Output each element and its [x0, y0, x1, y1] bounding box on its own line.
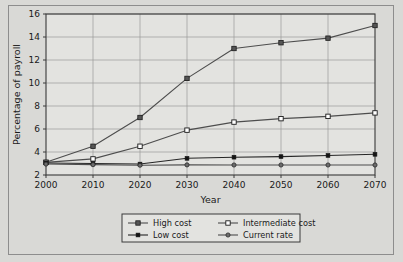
data-point-high-cost [91, 144, 95, 148]
chart-figure: 2468101214162000201020202030204020502060… [0, 0, 403, 262]
data-point-high-cost [326, 36, 330, 40]
y-tick-label: 16 [29, 9, 41, 19]
legend-label-low-cost: Low cost [153, 230, 190, 240]
x-tick-label: 2030 [176, 180, 199, 190]
x-tick-label: 2000 [35, 180, 58, 190]
x-tick-label: 2060 [317, 180, 340, 190]
data-point-intermediate-cost [279, 116, 283, 120]
x-tick-label: 2050 [270, 180, 293, 190]
data-point-current-rate [185, 163, 189, 167]
data-point-intermediate-cost [91, 157, 95, 161]
data-point-current-rate [373, 163, 377, 167]
y-tick-label: 4 [34, 147, 40, 157]
y-tick-label: 12 [29, 55, 40, 65]
line-chart: 2468101214162000201020202030204020502060… [0, 0, 403, 262]
legend-label-intermediate-cost: Intermediate cost [243, 218, 316, 228]
legend-label-current-rate: Current rate [243, 230, 293, 240]
y-tick-label: 2 [34, 170, 40, 180]
data-point-current-rate [326, 163, 330, 167]
data-point-high-cost [138, 115, 142, 119]
data-point-current-rate [279, 163, 283, 167]
x-axis-title: Year [199, 194, 220, 205]
data-point-intermediate-cost [373, 111, 377, 115]
y-tick-label: 8 [34, 101, 40, 111]
legend-marker-current-rate [226, 233, 230, 237]
x-tick-label: 2070 [364, 180, 387, 190]
y-tick-label: 14 [29, 32, 41, 42]
legend-marker-intermediate-cost [226, 221, 230, 225]
legend-marker-low-cost [136, 233, 140, 237]
data-point-high-cost [232, 46, 236, 50]
data-point-low-cost [185, 156, 189, 160]
data-point-current-rate [44, 162, 48, 166]
data-point-low-cost [232, 155, 236, 159]
data-point-low-cost [279, 155, 283, 159]
data-point-intermediate-cost [326, 114, 330, 118]
data-point-high-cost [185, 76, 189, 80]
data-point-intermediate-cost [185, 128, 189, 132]
data-point-current-rate [91, 163, 95, 167]
x-tick-label: 2020 [129, 180, 152, 190]
y-tick-label: 6 [34, 124, 40, 134]
legend-marker-high-cost [136, 221, 140, 225]
data-point-high-cost [373, 23, 377, 27]
data-point-current-rate [138, 163, 142, 167]
data-point-intermediate-cost [138, 144, 142, 148]
y-axis-title: Percentage of payroll [11, 44, 22, 145]
y-tick-label: 10 [29, 78, 41, 88]
data-point-high-cost [279, 41, 283, 45]
data-point-intermediate-cost [232, 120, 236, 124]
x-tick-label: 2010 [82, 180, 105, 190]
legend-label-high-cost: High cost [153, 218, 192, 228]
data-point-current-rate [232, 163, 236, 167]
x-tick-label: 2040 [223, 180, 246, 190]
data-point-low-cost [373, 152, 377, 156]
data-point-low-cost [326, 154, 330, 158]
